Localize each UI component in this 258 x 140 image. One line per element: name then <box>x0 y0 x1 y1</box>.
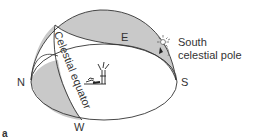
pole-label-line1: South <box>178 36 242 49</box>
south-celestial-pole-label: South celestial pole <box>178 36 242 62</box>
celestial-sphere-diagram <box>0 0 258 140</box>
figure-label: a <box>2 128 8 139</box>
north-label: N <box>17 77 25 88</box>
east-label: E <box>121 32 128 43</box>
west-label: W <box>74 122 84 133</box>
south-label: S <box>181 77 188 88</box>
pole-label-line2: celestial pole <box>178 49 242 62</box>
